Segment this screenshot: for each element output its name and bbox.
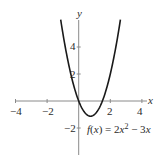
x-tick-label: 2: [107, 105, 113, 117]
x-tick-label: −4: [10, 105, 22, 117]
function-formula: f(x) = 2x2 − 3x: [87, 122, 151, 136]
parabola-curve: [61, 20, 121, 116]
chart-container: x y −4 −2 2 4 4 2 −2 f(x) = 2x2 − 3x: [0, 0, 164, 161]
y-axis-label: y: [76, 7, 82, 19]
y-tick-label: 4: [70, 40, 76, 52]
function-plot: x y −4 −2 2 4 4 2 −2 f(x) = 2x2 − 3x: [0, 0, 164, 161]
x-tick-label: −2: [42, 105, 54, 117]
y-tick-label: −2: [64, 122, 76, 134]
x-axis-label: x: [147, 94, 153, 106]
x-tick-label: 4: [137, 105, 143, 117]
